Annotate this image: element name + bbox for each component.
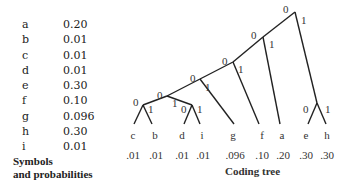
coding-tree: 0 1 0 1 0 1 0 1 0 1 0 1 0 1 0 1 c b d i … <box>0 0 345 188</box>
leaf-symbol: g <box>230 129 236 141</box>
leaf-symbol: a <box>280 129 285 141</box>
edge-label-0: 0 <box>133 96 139 108</box>
leaf-probabilities: .01 .01 .01 .01 .096 .10 .20 .30 .30 <box>126 149 334 161</box>
leaf-probability: .30 <box>299 149 313 161</box>
leaf-probability: .01 <box>196 149 210 161</box>
leaf-symbol: e <box>304 129 309 141</box>
leaf-probability: .10 <box>255 149 269 161</box>
edge-label-1: 1 <box>301 14 307 26</box>
edge-label-0: 0 <box>157 89 163 101</box>
leaf-probability: .096 <box>225 149 245 161</box>
leaf-symbol: f <box>260 129 264 141</box>
edge-label-0: 0 <box>283 3 289 15</box>
edge-label-1: 1 <box>205 81 211 93</box>
edge-label-0: 0 <box>303 103 309 115</box>
edge-label-1: 1 <box>269 38 275 50</box>
leaf-symbol: h <box>324 129 330 141</box>
edge-label-0: 0 <box>251 29 257 41</box>
leaf-symbol: c <box>131 129 136 141</box>
leaf-probability: .01 <box>126 149 140 161</box>
leaf-symbol: i <box>200 129 203 141</box>
leaf-probability: .01 <box>175 149 189 161</box>
edge-label-1: 1 <box>238 63 244 75</box>
leaf-symbols: c b d i g f a e h <box>131 129 331 141</box>
edge-label-1: 1 <box>325 103 331 115</box>
edge-label-0: 0 <box>222 55 228 67</box>
leaf-symbol: d <box>179 129 185 141</box>
leaf-symbol: b <box>152 129 158 141</box>
edge-label-1: 1 <box>148 103 154 115</box>
edge-label-0: 0 <box>181 103 187 115</box>
edge-label-1: 1 <box>172 97 178 109</box>
tree-edges <box>134 12 326 124</box>
edge-label-1: 1 <box>197 103 203 115</box>
edge-label-0: 0 <box>190 72 196 84</box>
leaf-probability: .30 <box>320 149 334 161</box>
tree-caption: Coding tree <box>225 165 280 177</box>
leaf-probability: .20 <box>276 149 290 161</box>
leaf-probability: .01 <box>149 149 163 161</box>
